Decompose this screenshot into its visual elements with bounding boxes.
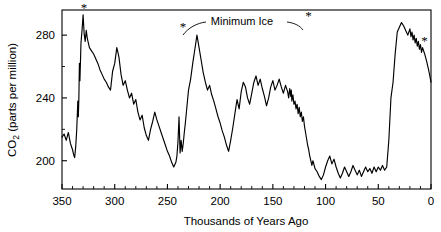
- y-axis-ticks: [62, 35, 67, 161]
- x-axis-title: Thousands of Years Ago: [184, 215, 309, 227]
- x-tick-label: 300: [105, 195, 124, 207]
- co2-ice-core-chart: 350300250200150100500 200240280 Minimum …: [0, 0, 441, 232]
- x-axis-ticks: [62, 184, 431, 189]
- chart-canvas: 350300250200150100500 200240280 Minimum …: [0, 0, 441, 232]
- x-tick-label: 100: [316, 195, 335, 207]
- star-marker-3: *: [305, 8, 312, 23]
- star-marker-2: *: [180, 19, 187, 34]
- star-marker-1: *: [81, 0, 88, 15]
- x-tick-label: 50: [372, 195, 385, 207]
- svg-text:CO2 (parts per million): CO2 (parts per million): [6, 43, 21, 157]
- plot-frame: [62, 10, 431, 189]
- y-axis-title-prefix: CO: [6, 140, 18, 157]
- y-axis-title: CO2 (parts per million): [6, 43, 21, 157]
- y-tick-label: 280: [36, 29, 55, 41]
- x-tick-label: 150: [263, 195, 282, 207]
- y-tick-label: 240: [36, 92, 55, 104]
- star-marker-4: *: [421, 33, 428, 48]
- co2-data-line: [62, 15, 431, 180]
- y-tick-label: 200: [36, 155, 55, 167]
- x-axis-tick-labels: 350300250200150100500: [52, 195, 434, 207]
- x-tick-label: 200: [211, 195, 230, 207]
- x-tick-label: 0: [428, 195, 434, 207]
- y-axis-title-suffix: (parts per million): [6, 43, 18, 135]
- y-axis-tick-labels: 200240280: [36, 29, 55, 167]
- x-tick-label: 350: [52, 195, 71, 207]
- x-tick-label: 250: [158, 195, 177, 207]
- minimum-ice-annotation: Minimum Ice: [211, 15, 273, 27]
